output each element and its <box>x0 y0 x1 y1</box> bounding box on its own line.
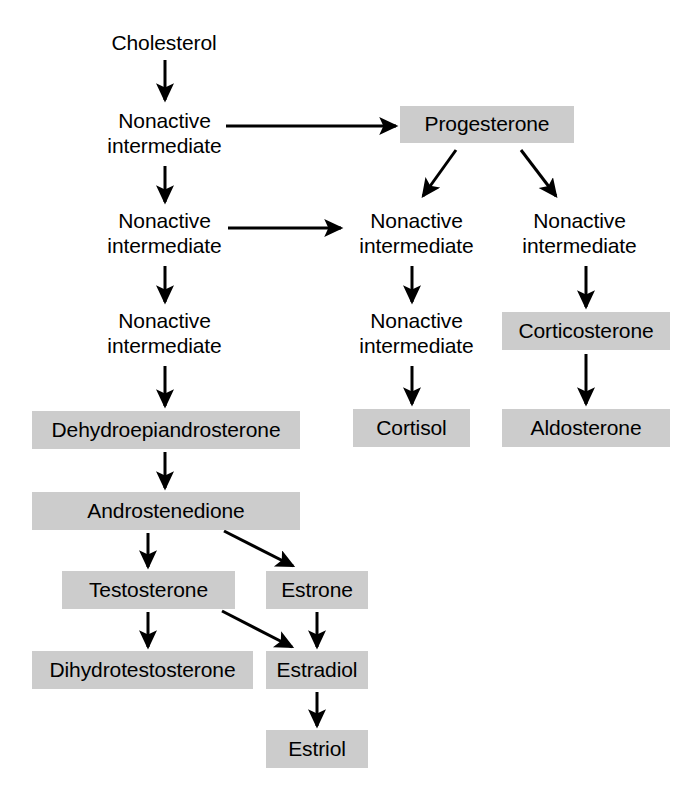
node-corticosterone: Corticosterone <box>502 312 670 350</box>
arrow-testosterone-to-estradiol <box>222 611 292 647</box>
node-estrone: Estrone <box>266 571 368 609</box>
node-estradiol: Estradiol <box>266 651 368 689</box>
node-dehydroepiandrosterone: Dehydroepiandrosterone <box>32 411 300 449</box>
node-nonactive-3: Nonactive intermediate <box>345 208 488 260</box>
node-progesterone: Progesterone <box>400 106 574 143</box>
node-nonactive-2: Nonactive intermediate <box>93 208 236 260</box>
node-dihydrotestosterone: Dihydrotestosterone <box>32 651 253 689</box>
node-nonactive-5: Nonactive intermediate <box>93 308 236 360</box>
node-androstenedione: Androstenedione <box>32 492 300 530</box>
arrow-progesterone-to-nonactive-4 <box>521 150 556 196</box>
node-cortisol: Cortisol <box>353 409 470 447</box>
steroid-pathway-diagram: CholesterolNonactive intermediateProgest… <box>0 0 697 791</box>
node-nonactive-4: Nonactive intermediate <box>508 208 651 260</box>
node-aldosterone: Aldosterone <box>502 409 670 447</box>
node-testosterone: Testosterone <box>62 571 235 609</box>
node-estriol: Estriol <box>266 730 368 768</box>
node-cholesterol: Cholesterol <box>103 28 225 58</box>
node-nonactive-6: Nonactive intermediate <box>345 308 488 360</box>
node-nonactive-1: Nonactive intermediate <box>93 108 236 160</box>
arrow-androstenedione-to-estrone <box>224 531 293 566</box>
arrow-progesterone-to-nonactive-3 <box>423 150 456 196</box>
